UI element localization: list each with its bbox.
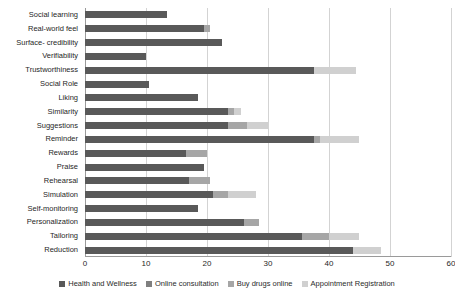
bar-segment[interactable]	[85, 67, 314, 74]
legend-item[interactable]: Online consultation	[146, 279, 219, 288]
y-axis-label: Liking	[58, 94, 78, 102]
stacked-bar[interactable]	[85, 67, 356, 74]
stacked-bar[interactable]	[85, 53, 146, 60]
y-axis-label: Verifiability	[42, 52, 78, 60]
bar-segment[interactable]	[213, 191, 228, 198]
y-axis-label: Trustworthiness	[25, 66, 78, 74]
bar-row	[85, 133, 451, 145]
bar-row	[85, 161, 451, 173]
y-axis-label: Rehearsal	[44, 177, 78, 185]
y-axis-label: Rewards	[48, 149, 78, 157]
bar-row	[85, 64, 451, 76]
bar-segment[interactable]	[320, 136, 360, 143]
x-axis-tick-label: 40	[325, 259, 334, 268]
bar-segment[interactable]	[85, 219, 244, 226]
bar-row	[85, 78, 451, 90]
bar-row	[85, 189, 451, 201]
bar-row	[85, 175, 451, 187]
y-axis-label: Personalization	[27, 218, 78, 226]
stacked-bar[interactable]	[85, 136, 359, 143]
y-axis-label: Tailoring	[50, 232, 78, 240]
legend-item[interactable]: Health and Wellness	[59, 279, 137, 288]
bar-segment[interactable]	[85, 11, 167, 18]
bar-segment[interactable]	[85, 108, 228, 115]
bar-segment[interactable]	[186, 150, 207, 157]
legend-label: Buy drugs online	[237, 279, 293, 288]
bar-segment[interactable]	[85, 233, 302, 240]
legend-swatch-icon	[59, 281, 65, 287]
y-axis-label: Reminder	[45, 135, 78, 143]
bar-segment[interactable]	[85, 164, 204, 171]
bar-rows	[85, 8, 451, 257]
x-axis-tick-label: 30	[264, 259, 273, 268]
bar-segment[interactable]	[244, 219, 259, 226]
bar-segment[interactable]	[85, 81, 149, 88]
bar-segment[interactable]	[85, 122, 228, 129]
bar-segment[interactable]	[85, 136, 314, 143]
bar-segment[interactable]	[204, 25, 210, 32]
stacked-bar[interactable]	[85, 94, 198, 101]
stacked-bar[interactable]	[85, 11, 167, 18]
chart-legend: Health and WellnessOnline consultationBu…	[0, 279, 454, 288]
bar-segment[interactable]	[85, 94, 198, 101]
gridline-60	[451, 8, 452, 257]
x-axis-tick-label: 60	[447, 259, 455, 268]
bar-segment[interactable]	[353, 247, 380, 254]
stacked-bar[interactable]	[85, 177, 210, 184]
legend-item[interactable]: Buy drugs online	[228, 279, 293, 288]
legend-swatch-icon	[146, 281, 152, 287]
bar-segment[interactable]	[314, 67, 357, 74]
bar-segment[interactable]	[302, 233, 329, 240]
bar-segment[interactable]	[228, 122, 246, 129]
bar-segment[interactable]	[85, 205, 198, 212]
x-axis-tick-label: 10	[142, 259, 151, 268]
bar-segment[interactable]	[85, 25, 204, 32]
bar-row	[85, 92, 451, 104]
y-axis-label: Similarity	[48, 108, 78, 116]
plot-area	[85, 8, 451, 257]
stacked-bar[interactable]	[85, 233, 359, 240]
bar-row	[85, 244, 451, 256]
stacked-bar[interactable]	[85, 39, 222, 46]
y-axis-label: Real-world feel	[28, 25, 78, 33]
stacked-bar[interactable]	[85, 219, 259, 226]
bar-segment[interactable]	[329, 233, 360, 240]
x-axis-tick-label: 20	[203, 259, 212, 268]
bar-segment[interactable]	[85, 177, 189, 184]
y-axis-label: Suggestions	[37, 122, 78, 130]
bar-segment[interactable]	[85, 39, 222, 46]
stacked-bar[interactable]	[85, 247, 381, 254]
stacked-bar[interactable]	[85, 191, 256, 198]
stacked-bar[interactable]	[85, 25, 210, 32]
bar-row	[85, 216, 451, 228]
y-axis-label: Social learning	[29, 11, 78, 19]
stacked-bar[interactable]	[85, 81, 149, 88]
bar-row	[85, 120, 451, 132]
stacked-bar[interactable]	[85, 164, 204, 171]
bar-row	[85, 50, 451, 62]
bar-segment[interactable]	[228, 191, 255, 198]
stacked-bar[interactable]	[85, 122, 268, 129]
bar-segment[interactable]	[234, 108, 240, 115]
legend-item[interactable]: Appointment Registration	[302, 279, 395, 288]
y-axis-label: Simulation	[43, 191, 78, 199]
bar-segment[interactable]	[247, 122, 268, 129]
legend-label: Appointment Registration	[311, 279, 395, 288]
y-axis-label: Self-monitoring	[28, 205, 78, 213]
y-axis-label: Social Role	[40, 80, 78, 88]
legend-swatch-icon	[302, 281, 308, 287]
bar-row	[85, 106, 451, 118]
stacked-bar[interactable]	[85, 150, 207, 157]
legend-label: Health and Wellness	[68, 279, 137, 288]
bar-segment[interactable]	[85, 191, 213, 198]
bar-segment[interactable]	[85, 247, 353, 254]
stacked-bar[interactable]	[85, 108, 241, 115]
bar-segment[interactable]	[85, 53, 146, 60]
bar-segment[interactable]	[189, 177, 210, 184]
bar-row	[85, 230, 451, 242]
stacked-bar[interactable]	[85, 205, 198, 212]
bar-segment[interactable]	[85, 150, 186, 157]
legend-label: Online consultation	[155, 279, 219, 288]
x-axis-tick-label: 50	[386, 259, 395, 268]
